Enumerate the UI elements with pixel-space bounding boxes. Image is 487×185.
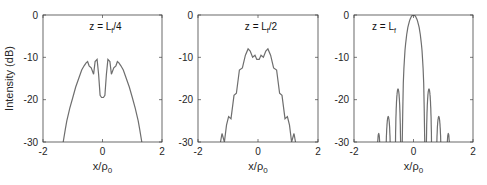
subplot-2: 0-10-20-30-202x/ρ0z = Lf/2 (179, 10, 322, 176)
y-tick-label: -10 (24, 52, 39, 63)
x-tick-label: 2 (470, 146, 476, 157)
x-axis-label: x/ρ0 (248, 160, 268, 175)
data-curve (221, 49, 296, 142)
x-tick-label: -2 (39, 146, 48, 157)
x-tick-label: 0 (255, 146, 261, 157)
x-tick-label: 0 (100, 146, 106, 157)
x-tick-label: 0 (411, 146, 417, 157)
panel-annotation: z = Lf/2 (245, 21, 278, 34)
x-tick-label: 2 (315, 146, 321, 157)
y-tick-label: -10 (335, 52, 350, 63)
x-axis-label: x/ρ0 (93, 160, 113, 175)
y-tick-label: -30 (24, 137, 39, 148)
axes-box (198, 15, 318, 142)
y-tick-label: 0 (187, 10, 193, 21)
subplot-3: 0-10-20-30-202x/ρ0z = Lf (335, 10, 477, 176)
axes-box (354, 15, 473, 142)
panel-annotation: z = Lf (372, 21, 396, 34)
x-axis-label: x/ρ0 (404, 160, 424, 175)
panel-annotation: z = Lf/4 (89, 21, 122, 34)
figure: 0-10-20-30-202x/ρ0Intensity (dB)z = Lf/4… (0, 0, 487, 185)
y-tick-label: 0 (32, 10, 38, 21)
y-axis-label: Intensity (dB) (3, 46, 15, 111)
axes-box (43, 15, 162, 142)
x-tick-label: 2 (159, 146, 165, 157)
y-tick-label: -10 (179, 52, 194, 63)
data-curve (376, 15, 450, 146)
data-curve (63, 59, 142, 142)
y-tick-label: -20 (335, 94, 350, 105)
y-tick-label: -30 (179, 137, 194, 148)
y-tick-label: -20 (24, 94, 39, 105)
y-tick-label: -20 (179, 94, 194, 105)
y-tick-label: -30 (335, 137, 350, 148)
x-tick-label: -2 (350, 146, 359, 157)
subplot-1: 0-10-20-30-202x/ρ0Intensity (dB)z = Lf/4 (3, 10, 165, 176)
x-tick-label: -2 (194, 146, 203, 157)
y-tick-label: 0 (343, 10, 349, 21)
